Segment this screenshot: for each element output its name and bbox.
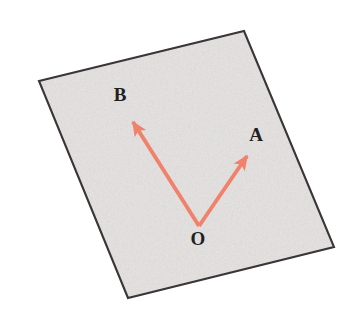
paper-sheet <box>30 25 345 305</box>
label-O: O <box>191 228 206 249</box>
vector-diagram-figure: B A O <box>0 0 359 318</box>
figure-canvas: B A O <box>0 0 359 318</box>
label-B: B <box>114 84 127 105</box>
paper-texture <box>30 25 345 305</box>
label-A: A <box>249 124 263 145</box>
